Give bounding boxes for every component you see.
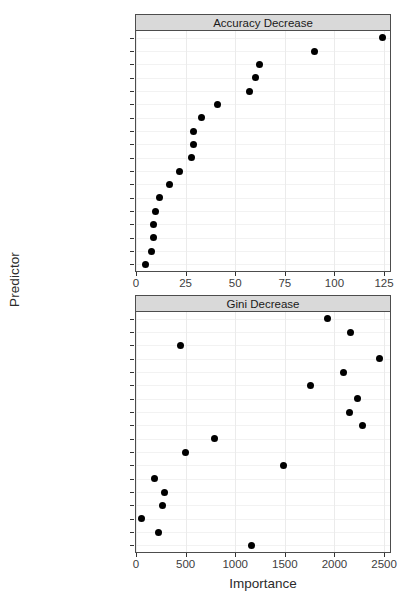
gridline-horizontal [136,519,390,520]
gridline-horizontal [136,264,390,265]
data-point [151,475,158,482]
x-tick-label: 50 [229,277,242,289]
x-tick-mark [285,272,286,276]
panel-accuracy-decrease: Accuracy Decrease [135,14,391,272]
y-tick-mark [130,211,134,212]
data-point [346,409,353,416]
gridline-horizontal [136,171,390,172]
gridline-horizontal [136,251,390,252]
gridline-horizontal [136,345,390,346]
x-tick-label: 1500 [272,558,298,570]
gridline-horizontal [136,38,390,39]
x-axis-title: Importance [135,576,391,591]
y-tick-mark [130,505,134,506]
gridline-horizontal [136,359,390,360]
x-tick-mark [235,272,236,276]
data-point [359,422,366,429]
data-point [156,194,163,201]
gridline-horizontal [136,439,390,440]
y-tick-mark [130,144,134,145]
data-point [150,221,157,228]
data-point [188,154,195,161]
x-tick-mark [235,553,236,557]
y-tick-mark [130,171,134,172]
data-point [256,61,263,68]
gridline-vertical [136,31,137,271]
gridline-vertical [235,312,236,552]
y-tick-mark [130,198,134,199]
gridline-horizontal [136,51,390,52]
figure-root: Predictor Importance Accuracy Decrease G… [0,0,403,602]
data-point [155,529,162,536]
x-tick-mark [186,553,187,557]
gridline-horizontal [136,425,390,426]
y-tick-mark [130,439,134,440]
y-tick-mark [130,359,134,360]
y-tick-mark [130,532,134,533]
data-point [340,369,347,376]
y-axis-title: Predictor [7,230,22,330]
gridline-horizontal [136,479,390,480]
x-tick-mark [285,553,286,557]
y-tick-mark [130,91,134,92]
y-tick-mark [130,224,134,225]
data-point [190,141,197,148]
y-tick-mark [130,492,134,493]
gridline-vertical [384,31,385,271]
data-point [190,128,197,135]
x-tick-mark [136,553,137,557]
gridline-horizontal [136,118,390,119]
data-point [150,234,157,241]
gridline-vertical [285,312,286,552]
gridline-vertical [334,312,335,552]
y-tick-mark [130,264,134,265]
gridline-horizontal [136,452,390,453]
x-tick-mark [136,272,137,276]
data-point [198,114,205,121]
gridline-horizontal [136,144,390,145]
y-tick-mark [130,399,134,400]
gridline-horizontal [136,238,390,239]
data-point [177,342,184,349]
x-tick-label: 2500 [371,558,397,570]
gridline-horizontal [136,184,390,185]
data-point [379,34,386,41]
gridline-vertical [384,312,385,552]
x-tick-mark [334,553,335,557]
data-point [307,382,314,389]
data-point [214,101,221,108]
data-point [246,88,253,95]
gridline-horizontal [136,399,390,400]
y-tick-mark [130,452,134,453]
plot-area-gini-decrease [135,312,391,553]
gridline-horizontal [136,131,390,132]
y-tick-mark [130,332,134,333]
y-tick-mark [130,104,134,105]
gridline-horizontal [136,224,390,225]
y-tick-mark [130,425,134,426]
y-tick-mark [130,465,134,466]
data-point [252,74,259,81]
data-point [280,462,287,469]
y-tick-mark [130,345,134,346]
x-tick-label: 2000 [322,558,348,570]
data-point [152,208,159,215]
gridline-horizontal [136,505,390,506]
gridline-horizontal [136,64,390,65]
y-tick-mark [130,184,134,185]
gridline-horizontal [136,78,390,79]
data-point [248,542,255,549]
y-tick-mark [130,51,134,52]
data-point [176,168,183,175]
gridline-vertical [334,31,335,271]
y-tick-mark [130,78,134,79]
gridline-horizontal [136,465,390,466]
panel-strip-gini-decrease: Gini Decrease [135,295,391,312]
data-point [347,329,354,336]
x-tick-mark [334,272,335,276]
y-tick-mark [130,64,134,65]
x-tick-label: 100 [325,277,344,289]
gridline-horizontal [136,211,390,212]
data-point [142,261,149,268]
data-point [166,181,173,188]
